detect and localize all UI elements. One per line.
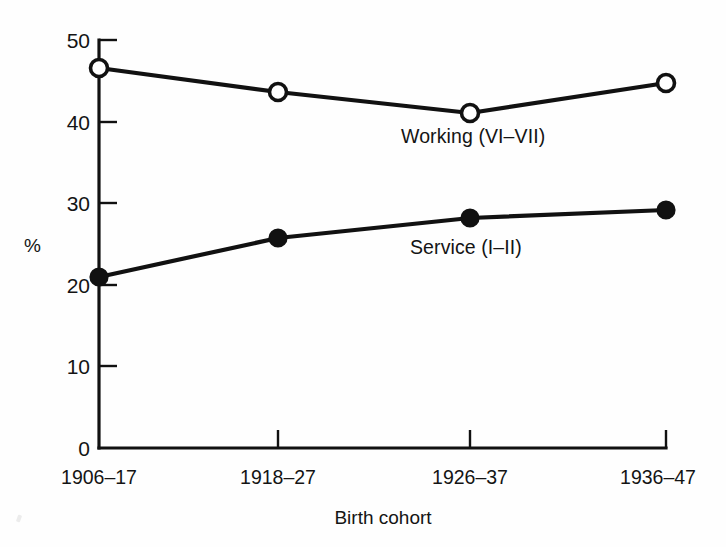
chart-container: 50 40 30 20 10 0 % 1906–17 1918–27 1926–… xyxy=(0,0,726,547)
series-line-service xyxy=(99,210,666,277)
x-tick-label-1906-17: 1906–17 xyxy=(24,468,174,488)
x-axis-title: Birth cohort xyxy=(283,508,483,527)
chart-plot-area xyxy=(0,0,726,547)
x-tick-label-1926-37: 1926–37 xyxy=(395,468,545,488)
data-point-service-1926-37[interactable] xyxy=(462,210,479,227)
data-point-working-1918-27[interactable] xyxy=(270,84,287,101)
data-point-service-1906-17[interactable] xyxy=(91,269,108,286)
x-tick-label-1918-27: 1918–27 xyxy=(203,468,353,488)
data-point-working-1936-47[interactable] xyxy=(658,75,675,92)
y-tick-label-10: 10 xyxy=(46,356,90,377)
series-line-working xyxy=(99,68,666,113)
data-point-service-1936-47[interactable] xyxy=(658,202,675,219)
data-point-working-1906-17[interactable] xyxy=(91,60,108,77)
data-point-working-1926-37[interactable] xyxy=(462,105,479,122)
y-tick-label-40: 40 xyxy=(46,112,90,133)
series-label-working: Working (VI–VII) xyxy=(401,127,545,147)
x-tick-label-1936-47: 1936–47 xyxy=(583,468,726,488)
y-axis-title: % xyxy=(24,236,41,255)
data-point-service-1918-27[interactable] xyxy=(270,230,287,247)
y-tick-label-50: 50 xyxy=(46,30,90,51)
y-tick-label-30: 30 xyxy=(46,193,90,214)
series-label-service: Service (I–II) xyxy=(410,238,522,258)
y-tick-label-20: 20 xyxy=(46,275,90,296)
y-tick-label-0: 0 xyxy=(46,438,90,459)
